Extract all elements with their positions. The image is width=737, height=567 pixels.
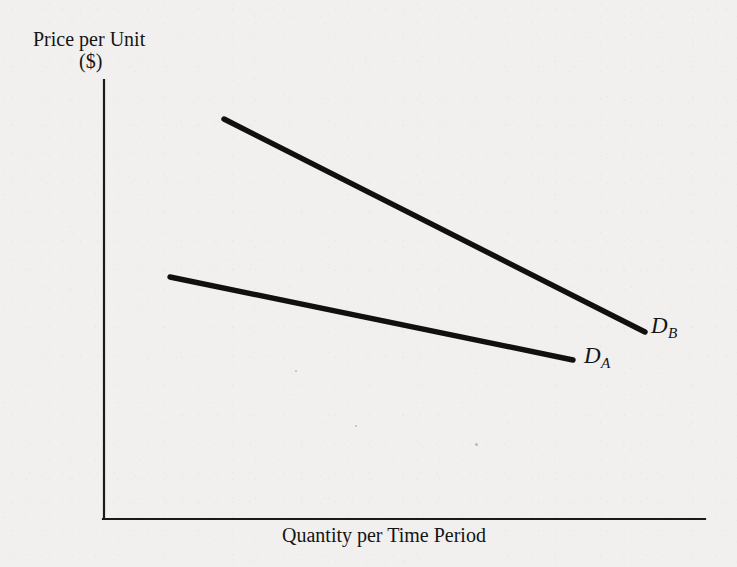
- curve-label-db-subscript: B: [668, 324, 677, 341]
- x-axis-title: Quantity per Time Period: [282, 524, 486, 546]
- demand-curve-figure: Price per Unit ($) Quantity per Time Per…: [0, 0, 737, 567]
- curve-label-db: DB: [651, 313, 677, 339]
- plot-area: [0, 0, 737, 567]
- curve-label-da-subscript: A: [601, 354, 610, 371]
- curve-label-da-letter: D: [584, 343, 601, 368]
- y-axis-units-label: ($): [79, 50, 102, 72]
- curve-label-da: DA: [584, 343, 610, 369]
- y-axis-title: Price per Unit: [33, 28, 145, 50]
- curve-label-db-letter: D: [651, 313, 668, 338]
- demand-curve-a: [170, 277, 573, 360]
